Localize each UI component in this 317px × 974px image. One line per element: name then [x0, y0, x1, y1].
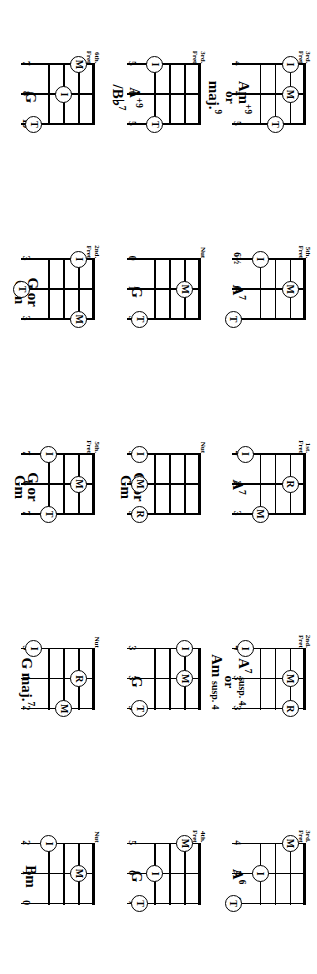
finger-marker-m: M	[176, 670, 193, 687]
fretboard: IRM	[33, 648, 95, 710]
chord-name-line: maj.9	[207, 39, 224, 155]
fret-position-caption: 3rd.Fret	[296, 819, 311, 843]
fret-position-caption: Nut	[92, 819, 100, 843]
chord-name-line: A6	[231, 819, 248, 935]
chord-diagram: IMRNut333G orGm	[115, 431, 203, 543]
fretboard: MIT	[244, 843, 306, 905]
chord-name-line: or	[223, 624, 236, 740]
chord-name-line: Gm	[13, 429, 26, 545]
finger-marker-i: I	[252, 251, 269, 268]
chord-diagram: IMT5th.Fret767G orGm	[9, 431, 97, 543]
fret-caption-line1: 5th.	[92, 429, 100, 453]
finger-marker-i: I	[176, 640, 193, 657]
chord-name: A+9/B♭7	[111, 39, 145, 155]
chord-diagram: MIT4th.Fret567G	[115, 821, 203, 933]
fret-caption-line1: 2nd.	[92, 234, 100, 258]
fret-caption-line1: 6th.	[92, 39, 100, 63]
chord-column: IRM1st.Fret423A7IMRNut333G orGmIMT5th.Fr…	[0, 390, 317, 585]
chord-name-line: G	[130, 624, 143, 740]
fret-caption-line1: 5th.	[304, 234, 312, 258]
finger-marker-m: M	[282, 670, 299, 687]
fretboard: ITM	[33, 258, 95, 320]
chord-chart-canvas: MIT3rd.Fret456½A6MIT4th.Fret567GIMNut210…	[0, 0, 317, 974]
finger-marker-r: R	[70, 670, 87, 687]
chord-name-line: G	[130, 234, 143, 350]
chord-column: IMR2nd.Fret433A7 susp. 4orAm susp. 4IMT3…	[0, 584, 317, 779]
finger-marker-r: R	[282, 700, 299, 717]
chord-diagram: IRMNut312G maj.7	[9, 626, 97, 738]
finger-marker-i: I	[252, 865, 269, 882]
finger-marker-m: M	[176, 835, 193, 852]
fretboard: IM	[33, 843, 95, 905]
finger-marker-t: T	[40, 506, 57, 523]
chord-name: G	[130, 624, 143, 740]
fretboard: MIT	[33, 63, 95, 125]
chord-name-line: G	[24, 39, 37, 155]
finger-marker-r: R	[131, 506, 148, 523]
fret-caption-line1: 3rd.	[304, 819, 312, 843]
finger-marker-m: M	[70, 56, 87, 73]
chord-column: IMT5th.Fret6½68A7MTNut013GITM2nd.Fret363…	[0, 195, 317, 390]
finger-marker-i: I	[40, 835, 57, 852]
finger-marker-i: I	[282, 56, 299, 73]
chord-diagram: MTNut013G	[115, 236, 203, 348]
fret-position-caption: 4th.Fret	[191, 819, 206, 843]
fret-caption-line1: 4th.	[198, 819, 206, 843]
finger-marker-m: M	[282, 281, 299, 298]
fretboard: MT	[139, 258, 201, 320]
chord-diagram: IMT5th.Fret6½68A7	[220, 236, 308, 348]
fret-position-caption: 2nd.Fret	[85, 234, 100, 258]
chord-column: MIT3rd.Fret456½A6MIT4th.Fret567GIMNut210…	[0, 779, 317, 974]
fret-caption-line2: Fret	[85, 429, 93, 453]
chord-name-line: A+9	[128, 39, 145, 155]
finger-marker-m: M	[252, 506, 269, 523]
fret-caption-line1: Nut	[92, 819, 100, 843]
chord-diagram: MIT3rd.Fret456½A6	[220, 821, 308, 933]
finger-marker-i: I	[237, 640, 254, 657]
chord-diagram: ITM2nd.Fret363G orGm	[9, 236, 97, 348]
finger-marker-m: M	[70, 476, 87, 493]
fretboard: IMT	[33, 453, 95, 515]
fret-position-caption: Nut	[92, 624, 100, 648]
fret-caption-line2: Fret	[296, 234, 304, 258]
fret-position-caption: Nut	[198, 429, 206, 453]
fret-position-caption: 3rd.Fret	[191, 39, 206, 63]
finger-marker-t: T	[225, 895, 242, 912]
finger-marker-m: M	[55, 700, 72, 717]
chord-diagram: MIT6th.Fret7810G	[9, 41, 97, 153]
fretboard: IMR	[139, 453, 201, 515]
chord-name: Am+9ormaj.9	[207, 39, 254, 155]
fretboard: MIT	[139, 843, 201, 905]
finger-marker-m: M	[282, 86, 299, 103]
fret-position-caption: 5th.Fret	[296, 234, 311, 258]
fret-position-caption: 5th.Fret	[85, 429, 100, 453]
finger-marker-i: I	[40, 446, 57, 463]
chord-name-line: /B♭7	[111, 39, 128, 155]
finger-marker-i: I	[146, 865, 163, 882]
chord-name-line: Gm	[119, 429, 132, 545]
fret-position-caption: Nut	[198, 234, 206, 258]
chord-name-line: Bm	[24, 819, 37, 935]
finger-marker-i: I	[237, 446, 254, 463]
finger-marker-t: T	[131, 895, 148, 912]
fret-position-caption: 6th.Fret	[85, 39, 100, 63]
finger-marker-m: M	[282, 835, 299, 852]
fret-caption-line2: Fret	[191, 39, 199, 63]
chord-name: G	[24, 39, 37, 155]
fret-caption-line1: 3rd.	[304, 39, 312, 63]
finger-marker-r: R	[282, 476, 299, 493]
finger-marker-i: I	[55, 86, 72, 103]
chord-grid: MIT3rd.Fret456½A6MIT4th.Fret567GIMNut210…	[0, 0, 317, 974]
chord-diagram: IMR2nd.Fret433A7 susp. 4orAm susp. 4	[220, 626, 308, 738]
fretboard: IMT	[139, 648, 201, 710]
finger-marker-m: M	[176, 281, 193, 298]
finger-marker-m: M	[70, 865, 87, 882]
fret-caption-line2: Fret	[296, 429, 304, 453]
finger-marker-m: M	[131, 476, 148, 493]
chord-name-line: G	[130, 819, 143, 935]
chord-name-line: Am susp. 4	[209, 624, 223, 740]
fretboard: IT	[139, 63, 201, 125]
fret-caption-line2: Fret	[296, 624, 304, 648]
fret-caption-line1: Nut	[92, 624, 100, 648]
fret-position-caption: 2nd.Fret	[296, 624, 311, 648]
